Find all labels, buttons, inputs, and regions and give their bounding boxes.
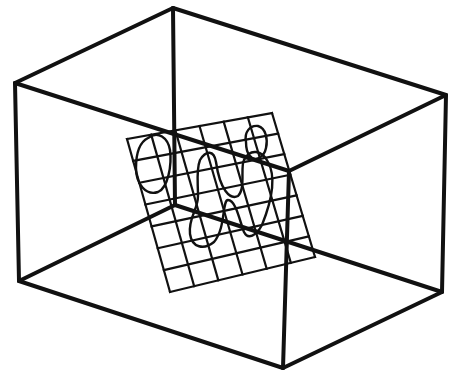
edge-vertical-left	[15, 83, 19, 281]
edge-bottom-left-front	[19, 281, 283, 368]
edge-bottom-back-left	[19, 205, 175, 281]
edge-vertical-right	[442, 95, 446, 292]
edge-vertical-front	[283, 171, 289, 368]
edge-bottom-right-front	[283, 292, 442, 368]
edge-top-back-right	[173, 8, 446, 95]
edge-vertical-back	[173, 8, 175, 205]
edge-top-back-left	[15, 8, 173, 83]
edge-top-right-front	[289, 95, 446, 171]
edge-bottom-back-right	[175, 205, 442, 292]
diagram-canvas	[0, 0, 457, 376]
box-diagram	[0, 0, 457, 376]
grid-line-vertical	[127, 139, 170, 292]
